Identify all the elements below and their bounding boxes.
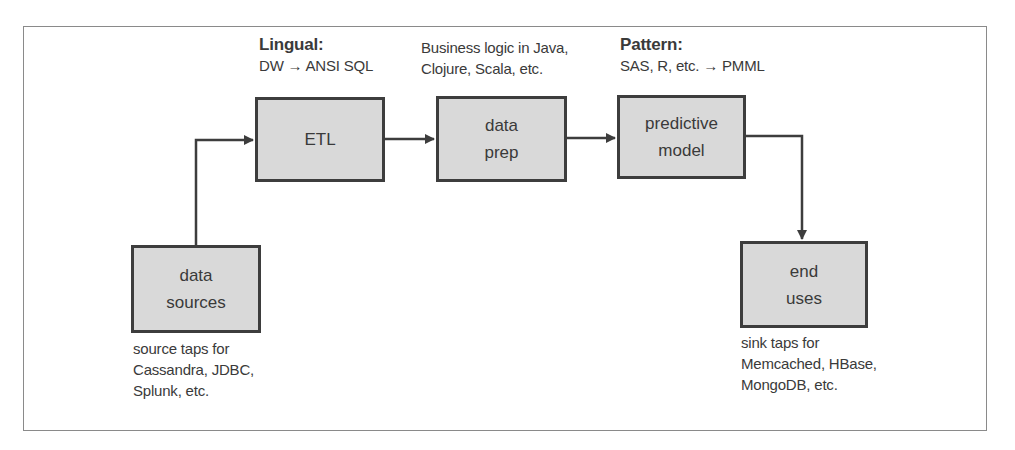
node-data-sources-label-2: sources xyxy=(166,289,226,316)
arrow-right-icon: → xyxy=(288,57,303,74)
annotation-predictive-model-target: PMML xyxy=(722,57,765,74)
node-data-sources-label-1: data xyxy=(179,262,212,289)
annotation-data-prep-line-2: Clojure, Scala, etc. xyxy=(421,58,568,79)
node-predictive-model-label-2: model xyxy=(658,137,704,164)
annotation-data-sources-line-2: Cassandra, JDBC, xyxy=(133,359,254,380)
annotation-etl-source: DW xyxy=(259,57,284,74)
annotation-predictive-model: Pattern: SAS, R, etc. → PMML xyxy=(620,34,765,76)
node-predictive-model-label-1: predictive xyxy=(645,110,718,137)
annotation-predictive-model-source: SAS, R, etc. xyxy=(620,57,699,74)
node-end-uses: end uses xyxy=(740,241,868,328)
annotation-etl-title: Lingual: xyxy=(259,35,324,54)
annotation-etl: Lingual: DW → ANSI SQL xyxy=(259,34,373,76)
annotation-predictive-model-title: Pattern: xyxy=(620,35,683,54)
annotation-end-uses-line-3: MongoDB, etc. xyxy=(741,374,877,395)
annotation-data-sources-line-1: source taps for xyxy=(133,338,254,359)
node-etl-label: ETL xyxy=(304,126,335,153)
annotation-etl-target: ANSI SQL xyxy=(306,57,374,74)
edge-predictive-model-to-end-uses xyxy=(745,136,802,239)
node-data-sources: data sources xyxy=(131,245,261,333)
annotation-end-uses-line-1: sink taps for xyxy=(741,332,877,353)
annotation-data-sources-line-3: Splunk, etc. xyxy=(133,380,254,401)
annotation-end-uses: sink taps for Memcached, HBase, MongoDB,… xyxy=(741,332,877,395)
edge-data-sources-to-etl xyxy=(196,140,253,245)
node-data-prep-label-1: data xyxy=(485,112,518,139)
arrow-right-icon: → xyxy=(703,57,718,74)
node-etl: ETL xyxy=(255,97,385,182)
node-predictive-model: predictive model xyxy=(617,95,746,179)
node-end-uses-label-2: uses xyxy=(786,285,822,312)
annotation-data-prep: Business logic in Java, Clojure, Scala, … xyxy=(421,37,568,79)
node-end-uses-label-1: end xyxy=(790,258,818,285)
annotation-data-sources: source taps for Cassandra, JDBC, Splunk,… xyxy=(133,338,254,401)
annotation-end-uses-line-2: Memcached, HBase, xyxy=(741,353,877,374)
node-data-prep: data prep xyxy=(436,96,567,182)
node-data-prep-label-2: prep xyxy=(484,139,518,166)
annotation-data-prep-line-1: Business logic in Java, xyxy=(421,37,568,58)
